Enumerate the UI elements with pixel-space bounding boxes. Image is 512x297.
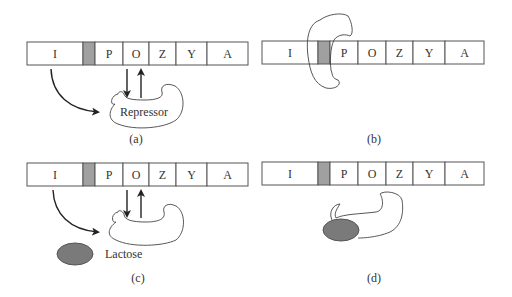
gene-y-label: Y [425, 167, 434, 181]
lactose-label: Lactose [105, 247, 142, 261]
gene-o-label: O [132, 47, 141, 61]
gene-p-label: P [106, 168, 113, 182]
caption-d: (d) [367, 271, 381, 285]
curved-arrow-icon [51, 69, 98, 112]
caption-a: (a) [129, 132, 142, 146]
gene-z-label: Z [159, 47, 166, 61]
promoter-gap-box [318, 162, 330, 185]
caption-c: (c) [131, 271, 144, 285]
gene-a-label: A [223, 47, 232, 61]
gene-o-label: O [368, 46, 377, 60]
gene-o-label: O [132, 168, 141, 182]
gene-p-label: P [341, 167, 348, 181]
gene-z-label: Z [159, 168, 166, 182]
repressor-protein-shape [109, 204, 183, 245]
gene-p-label: P [106, 47, 113, 61]
gene-i-label: I [288, 167, 292, 181]
curved-arrow-icon [53, 190, 98, 232]
gene-a-label: A [460, 46, 469, 60]
panel-b: I P O Z Y A (b) [262, 14, 484, 146]
gene-z-label: Z [396, 46, 403, 60]
lactose-molecule-icon [57, 243, 93, 265]
promoter-gap-box [83, 42, 95, 65]
gene-i-label: I [53, 168, 57, 182]
gene-o-label: O [368, 167, 377, 181]
operon-bar-d: I P O Z Y A [262, 162, 484, 185]
repressor-label: Repressor [120, 105, 168, 119]
promoter-gap-box [318, 41, 330, 64]
panel-d: I P O Z Y A (d) [262, 162, 484, 285]
caption-b: (b) [367, 132, 381, 146]
promoter-gap-box [83, 163, 95, 186]
gene-i-label: I [288, 46, 292, 60]
gene-a-label: A [223, 168, 232, 182]
operon-bar-c: I P O Z Y A [27, 163, 248, 186]
gene-i-label: I [53, 47, 57, 61]
panel-a: I P O Z Y A Repressor (a) [27, 42, 248, 146]
operon-bar-b: I P O Z Y A [262, 41, 484, 64]
gene-z-label: Z [396, 167, 403, 181]
lac-operon-diagram: I P O Z Y A Repressor (a) I P O Z Y A [0, 0, 512, 297]
gene-y-label: Y [425, 46, 434, 60]
gene-p-label: P [341, 46, 348, 60]
gene-y-label: Y [187, 47, 196, 61]
lactose-molecule-icon [323, 219, 359, 241]
panel-c: I P O Z Y A Lactose (c) [27, 163, 248, 285]
gene-y-label: Y [187, 168, 196, 182]
gene-a-label: A [460, 167, 469, 181]
operon-bar-a: I P O Z Y A [27, 42, 248, 65]
